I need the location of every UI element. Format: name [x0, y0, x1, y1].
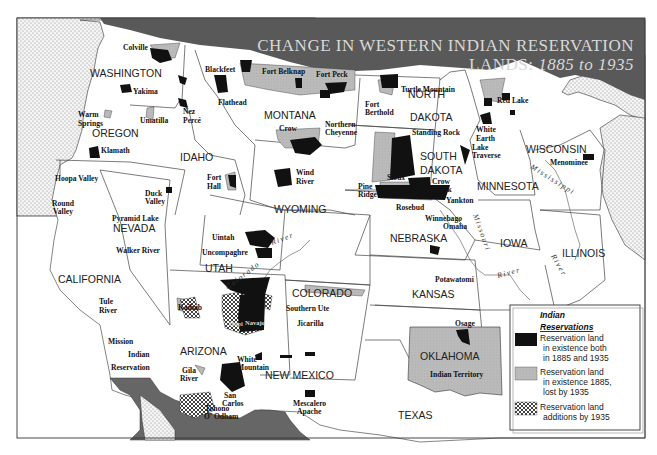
- svg-text:Kaibab: Kaibab: [178, 303, 202, 312]
- svg-text:Yakima: Yakima: [133, 87, 158, 96]
- svg-text:Sioux: Sioux: [387, 173, 405, 182]
- svg-text:NEVADA: NEVADA: [113, 222, 155, 234]
- svg-text:TEXAS: TEXAS: [398, 409, 432, 421]
- svg-text:Tule: Tule: [99, 297, 114, 306]
- svg-text:Turtle Mountain: Turtle Mountain: [401, 85, 456, 94]
- svg-text:Ridge: Ridge: [358, 190, 378, 199]
- svg-text:OREGON: OREGON: [92, 127, 139, 139]
- svg-text:COLORADO: COLORADO: [292, 287, 352, 299]
- svg-text:Southern Ute: Southern Ute: [286, 304, 330, 313]
- svg-text:Mission: Mission: [108, 337, 134, 346]
- svg-text:Uncompaghre: Uncompaghre: [202, 248, 248, 257]
- svg-text:Hopi: Hopi: [229, 320, 243, 327]
- svg-text:OKLAHOMA: OKLAHOMA: [420, 350, 480, 362]
- svg-text:DAKOTA: DAKOTA: [410, 111, 452, 123]
- svg-text:Berthold: Berthold: [365, 108, 394, 117]
- svg-text:White: White: [476, 125, 496, 134]
- svg-text:IOWA: IOWA: [500, 237, 528, 249]
- svg-text:CALIFORNIA: CALIFORNIA: [58, 273, 121, 285]
- svg-text:DAKOTA: DAKOTA: [420, 164, 462, 176]
- title-line2: LANDS: 1885 to 1935: [469, 55, 634, 74]
- svg-text:Nez: Nez: [183, 107, 196, 116]
- svg-text:Warm: Warm: [78, 110, 99, 119]
- svg-text:Menominee: Menominee: [550, 158, 589, 167]
- svg-text:Potawatomi: Potawatomi: [435, 275, 474, 284]
- svg-text:River: River: [180, 374, 199, 383]
- svg-text:Yankton: Yankton: [446, 196, 474, 205]
- svg-text:IDAHO: IDAHO: [180, 151, 213, 163]
- svg-text:MINNESOTA: MINNESOTA: [477, 180, 539, 192]
- svg-text:Umatilla: Umatilla: [140, 116, 168, 125]
- svg-text:Valley: Valley: [145, 197, 165, 206]
- svg-text:Flathead: Flathead: [218, 98, 247, 107]
- svg-text:Hoopa Valley: Hoopa Valley: [55, 174, 98, 183]
- svg-text:additions by 1935: additions by 1935: [543, 412, 610, 422]
- svg-text:ILLINOIS: ILLINOIS: [562, 247, 605, 259]
- svg-text:Navajo: Navajo: [245, 319, 265, 326]
- svg-text:Wind: Wind: [296, 168, 315, 177]
- svg-text:Apache: Apache: [297, 407, 322, 416]
- svg-text:MONTANA: MONTANA: [264, 109, 316, 121]
- svg-text:WYOMING: WYOMING: [274, 203, 327, 215]
- svg-text:in existence 1885,: in existence 1885,: [543, 377, 612, 387]
- svg-text:River: River: [99, 306, 118, 315]
- title-line1: CHANGE IN WESTERN INDIAN RESERVATION: [257, 36, 634, 55]
- svg-text:Cheyenne: Cheyenne: [325, 128, 358, 137]
- svg-text:Reservation: Reservation: [111, 363, 151, 372]
- svg-text:Earth: Earth: [476, 134, 496, 143]
- svg-text:Standing Rock: Standing Rock: [412, 128, 461, 137]
- svg-text:Rosebud: Rosebud: [396, 203, 425, 212]
- svg-text:Uintah: Uintah: [212, 233, 235, 242]
- svg-text:Indian Territory: Indian Territory: [430, 370, 484, 379]
- svg-text:Fort Peck: Fort Peck: [316, 70, 349, 79]
- svg-text:Red Lake: Red Lake: [497, 96, 529, 105]
- svg-text:Valley: Valley: [53, 207, 73, 216]
- svg-text:Springs: Springs: [78, 119, 103, 128]
- svg-text:Fort: Fort: [207, 173, 222, 182]
- svg-text:in existence both: in existence both: [543, 343, 607, 353]
- svg-text:Traverse: Traverse: [472, 151, 501, 160]
- svg-text:Reservation land: Reservation land: [540, 333, 604, 343]
- svg-text:Colville: Colville: [123, 43, 149, 52]
- svg-text:Pyramid Lake: Pyramid Lake: [112, 214, 159, 223]
- svg-text:Mt.: Mt.: [250, 298, 262, 307]
- svg-text:Percé: Percé: [183, 116, 202, 125]
- svg-text:Hall: Hall: [207, 182, 221, 191]
- svg-text:Blackfeet: Blackfeet: [205, 65, 236, 74]
- svg-text:WISCONSIN: WISCONSIN: [526, 143, 587, 155]
- svg-text:NEBRASKA: NEBRASKA: [390, 232, 447, 244]
- svg-text:Reservation land: Reservation land: [540, 402, 604, 412]
- legend-swatch-lost: [515, 367, 537, 380]
- svg-text:Omaha: Omaha: [443, 222, 467, 231]
- svg-text:Fort Belknap: Fort Belknap: [262, 67, 305, 76]
- svg-text:Reservation land: Reservation land: [540, 367, 604, 377]
- svg-text:O' Odham: O' Odham: [204, 412, 239, 421]
- svg-text:Indian: Indian: [128, 350, 150, 359]
- svg-text:Mountain: Mountain: [237, 363, 270, 372]
- svg-text:NEW MEXICO: NEW MEXICO: [265, 369, 334, 381]
- svg-text:Crow: Crow: [279, 124, 298, 133]
- svg-text:UTAH: UTAH: [205, 262, 233, 274]
- svg-text:Jicarilla: Jicarilla: [297, 319, 324, 328]
- svg-text:WASHINGTON: WASHINGTON: [90, 67, 162, 79]
- legend-swatch-existing: [515, 333, 537, 346]
- legend-title-line2: Reservations: [540, 322, 594, 332]
- svg-text:Creek: Creek: [432, 185, 452, 194]
- map-main: CHANGE IN WESTERN INDIAN RESERVATION LAN…: [0, 0, 657, 455]
- svg-text:ARIZONA: ARIZONA: [180, 345, 227, 357]
- legend-swatch-added: [515, 402, 537, 415]
- legend-title-line1: Indian: [540, 310, 565, 320]
- svg-text:Osage: Osage: [455, 319, 475, 328]
- svg-text:Walker River: Walker River: [116, 246, 161, 255]
- svg-text:lost by 1935: lost by 1935: [543, 387, 589, 397]
- svg-text:KANSAS: KANSAS: [412, 288, 455, 300]
- svg-text:River: River: [296, 177, 315, 186]
- svg-text:Klamath: Klamath: [101, 146, 130, 155]
- legend: Indian Reservations Reservation land in …: [510, 305, 643, 433]
- svg-text:in 1885 and 1935: in 1885 and 1935: [543, 353, 609, 363]
- svg-text:SOUTH: SOUTH: [420, 150, 457, 162]
